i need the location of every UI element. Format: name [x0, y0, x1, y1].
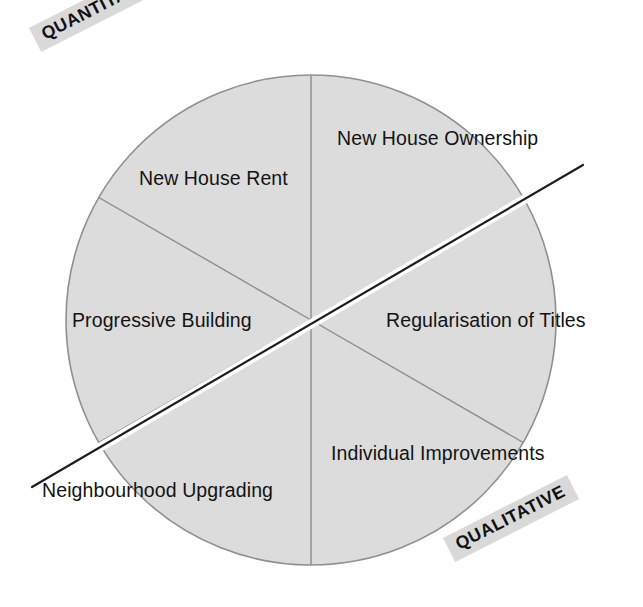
diagram-canvas: QUANTITATIVE QUALITATIVE New House Owner…: [0, 0, 643, 607]
segment-label-regularisation-of-titles: Regularisation of Titles: [386, 311, 586, 331]
segment-label-progressive-building: Progressive Building: [72, 311, 252, 331]
pie-wheel-graphic: [0, 0, 643, 607]
segment-label-neighbourhood-upgrading: Neighbourhood Upgrading: [42, 481, 273, 501]
segment-label-new-house-rent: New House Rent: [139, 169, 288, 189]
segment-label-individual-improvements: Individual Improvements: [331, 444, 545, 464]
segment-label-new-house-ownership: New House Ownership: [337, 129, 538, 149]
